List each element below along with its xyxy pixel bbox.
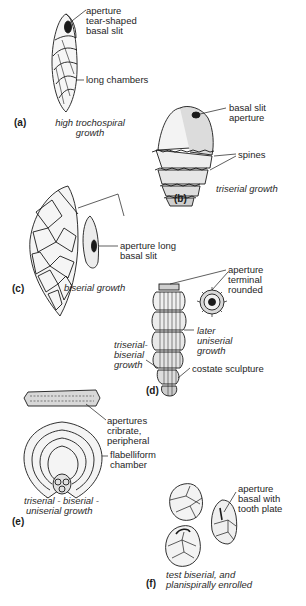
annotation-d-triserial-biserial: triserial- biserial growth bbox=[114, 340, 148, 370]
panel-label-f: (f) bbox=[146, 578, 156, 589]
annotation-line: long chambers bbox=[86, 75, 148, 85]
annotation-line: spines bbox=[238, 150, 265, 160]
annotation-c-aperture: aperture long basal slit bbox=[120, 241, 176, 261]
caption-e: triserial - biserial - uniserial growth bbox=[24, 496, 99, 516]
annotation-line: rounded bbox=[228, 285, 263, 295]
caption-a: high trochospiral growth bbox=[50, 118, 130, 138]
panel-label-a: (a) bbox=[14, 117, 26, 128]
annotation-d-costate: costate sculpture bbox=[192, 364, 264, 374]
annotation-line: aperture bbox=[229, 113, 266, 123]
caption-c: biserial growth bbox=[64, 283, 125, 293]
panel-label-c: (c) bbox=[12, 283, 24, 294]
specimen-a-high-trochospiral bbox=[52, 10, 86, 112]
annotation-f-aperture: aperture basal with tooth plate bbox=[238, 484, 282, 514]
annotation-a-aperture: aperture tear-shaped basal slit bbox=[86, 6, 137, 36]
annotation-line: peripheral bbox=[107, 436, 149, 446]
panel-label-b: (b) bbox=[174, 193, 187, 204]
panel-label-d: (d) bbox=[146, 385, 159, 396]
annotation-line: chamber bbox=[110, 460, 156, 470]
annotation-line: basal slit bbox=[120, 251, 176, 261]
annotation-line: basal slit bbox=[86, 26, 137, 36]
annotation-e-flabelliform: flabelliform chamber bbox=[110, 450, 156, 470]
specimen-f-biserial-planispiral bbox=[166, 484, 237, 567]
annotation-a-long-chambers: long chambers bbox=[86, 75, 148, 85]
specimen-c-biserial bbox=[30, 186, 124, 316]
caption-line: uniserial growth bbox=[24, 506, 99, 516]
annotation-b-aperture: basal slit aperture bbox=[229, 103, 266, 123]
caption-line: biserial growth bbox=[64, 283, 125, 293]
caption-line: planispirally enrolled bbox=[166, 580, 252, 590]
annotation-line: growth bbox=[197, 346, 232, 356]
caption-line: growth bbox=[50, 128, 130, 138]
annotation-b-spines: spines bbox=[238, 150, 265, 160]
annotation-d-aperture: aperture terminal rounded bbox=[228, 265, 263, 295]
annotation-line: costate sculpture bbox=[192, 364, 264, 374]
specimen-e-flabelliform bbox=[24, 390, 108, 498]
caption-line: triserial growth bbox=[216, 184, 278, 194]
caption-f: test biserial, and planispirally enrolle… bbox=[166, 570, 252, 590]
annotation-line: tooth plate bbox=[238, 504, 282, 514]
caption-b: triserial growth bbox=[216, 184, 278, 194]
annotation-d-later-uniserial: later uniserial growth bbox=[197, 326, 232, 356]
panel-label-e: (e) bbox=[12, 516, 24, 527]
annotation-line: growth bbox=[114, 360, 148, 370]
annotation-e-apertures: apertures cribrate, peripheral bbox=[107, 416, 149, 446]
